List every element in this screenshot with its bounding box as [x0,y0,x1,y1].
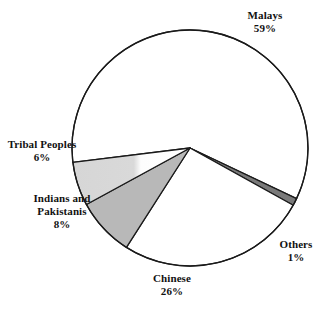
slice-label-tribal-peoples-name: Tribal Peoples [2,138,82,151]
slice-label-malays-value: 59% [229,22,301,35]
slice-label-chinese: Chinese 26% [135,272,209,298]
slice-label-malays-name: Malays [229,9,301,22]
slice-label-tribal-peoples: Tribal Peoples 6% [2,138,82,164]
slice-label-tribal-peoples-value: 6% [2,151,82,164]
pie-slices-group [72,30,308,266]
slice-label-others-value: 1% [272,251,320,264]
slice-label-indians-and-pakistanis-name-line2: Pakistanis [20,205,104,218]
slice-label-indians-and-pakistanis: Indians and Pakistanis 8% [20,192,104,231]
slice-label-others-name: Others [272,238,320,251]
slice-label-chinese-value: 26% [135,285,209,298]
slice-label-others: Others 1% [272,238,320,264]
pie-chart: Malays 59% Tribal Peoples 6% Indians and… [0,0,323,310]
slice-label-indians-and-pakistanis-name-line1: Indians and [20,192,104,205]
slice-label-malays: Malays 59% [229,9,301,35]
slice-label-indians-and-pakistanis-value: 8% [20,218,104,231]
slice-label-chinese-name: Chinese [135,272,209,285]
